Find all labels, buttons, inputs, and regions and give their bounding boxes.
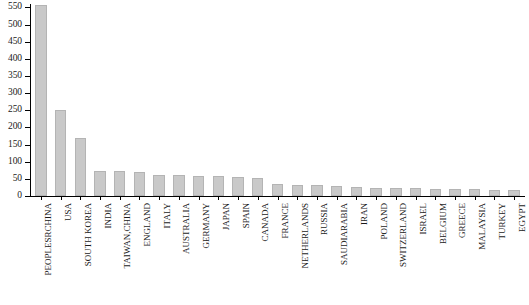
x-axis-tick xyxy=(356,196,357,200)
y-axis-tick xyxy=(25,7,30,8)
y-axis-tick-label: 50 xyxy=(0,174,22,184)
bar xyxy=(114,171,125,196)
bar xyxy=(232,177,243,196)
bar xyxy=(75,138,86,196)
bar xyxy=(55,110,66,196)
plot-area xyxy=(30,4,524,196)
x-axis-tick-label: SAUDIARABIA xyxy=(340,203,349,265)
x-axis-tick-label: NETHERLANDS xyxy=(301,203,310,269)
y-axis-tick xyxy=(25,42,30,43)
x-axis-tick-label: TAIWAN,CHINA xyxy=(123,203,132,269)
x-axis-tick xyxy=(61,196,62,200)
x-axis-tick xyxy=(337,196,338,200)
y-axis-tick-label: 400 xyxy=(0,54,22,64)
x-axis-tick-label: INDIA xyxy=(104,203,113,229)
y-axis-tick xyxy=(25,76,30,77)
y-axis-line xyxy=(30,4,31,197)
bar xyxy=(311,185,322,196)
x-axis-tick xyxy=(494,196,495,200)
x-axis-tick xyxy=(218,196,219,200)
y-axis-tick xyxy=(25,162,30,163)
y-axis-tick xyxy=(25,59,30,60)
bar-chart-figure: 050100150200250300350400450500550 PEOPLE… xyxy=(0,0,529,305)
y-axis-tick xyxy=(25,179,30,180)
x-axis-tick xyxy=(475,196,476,200)
bar xyxy=(370,188,381,196)
y-axis-tick xyxy=(25,93,30,94)
x-axis-tick-label: ENGLAND xyxy=(143,203,152,247)
x-axis-tick xyxy=(199,196,200,200)
bar xyxy=(35,5,46,196)
x-axis-tick-label: FRANCE xyxy=(281,203,290,239)
y-axis-tick xyxy=(25,127,30,128)
x-axis-tick xyxy=(41,196,42,200)
bar xyxy=(213,176,224,196)
x-axis-tick-label: EGYPT xyxy=(518,203,527,232)
x-axis-tick xyxy=(514,196,515,200)
bar xyxy=(173,175,184,196)
x-axis-tick-label: SWITZERLAND xyxy=(399,203,408,267)
y-axis-tick xyxy=(25,196,30,197)
bar xyxy=(272,184,283,196)
x-axis-tick-label: PEOPLESRCHINA xyxy=(44,203,53,276)
x-axis-tick xyxy=(435,196,436,200)
x-axis-tick xyxy=(179,196,180,200)
y-axis-tick-label: 450 xyxy=(0,37,22,47)
bar xyxy=(410,188,421,196)
x-axis-tick-label: TURKEY xyxy=(498,203,507,240)
x-axis-tick xyxy=(139,196,140,200)
bar xyxy=(193,176,204,196)
y-axis-tick-label: 0 xyxy=(0,191,22,201)
x-axis-tick xyxy=(238,196,239,200)
x-axis-tick-label: GREECE xyxy=(458,203,467,238)
x-axis-tick-label: RUSSIA xyxy=(320,203,329,235)
x-axis-tick xyxy=(396,196,397,200)
x-axis-tick-label: POLAND xyxy=(380,203,389,240)
x-axis-tick xyxy=(317,196,318,200)
y-axis-tick xyxy=(25,25,30,26)
x-axis-tick xyxy=(258,196,259,200)
bar xyxy=(449,189,460,196)
bar xyxy=(94,171,105,196)
x-axis-tick-label: GERMANY xyxy=(202,203,211,249)
bar xyxy=(390,188,401,196)
x-axis-tick-label: USA xyxy=(64,203,73,221)
x-axis-tick xyxy=(120,196,121,200)
x-axis-tick-label: AUSTRALIA xyxy=(182,203,191,254)
x-axis-tick xyxy=(416,196,417,200)
bar xyxy=(351,187,362,196)
bar xyxy=(430,189,441,196)
y-axis-tick-label: 350 xyxy=(0,71,22,81)
x-axis-tick-label: BELGIUM xyxy=(439,203,448,244)
x-axis-tick-label: MALAYSIA xyxy=(478,203,487,250)
x-axis-tick xyxy=(297,196,298,200)
x-axis-tick-label: CANADA xyxy=(261,203,270,242)
x-axis-tick-label: ISRAEL xyxy=(419,203,428,235)
y-axis-tick-label: 200 xyxy=(0,122,22,132)
y-axis-tick-label: 550 xyxy=(0,2,22,12)
bar xyxy=(292,185,303,196)
x-axis-tick xyxy=(455,196,456,200)
x-axis-tick-label: ITALY xyxy=(163,203,172,228)
y-axis-tick-label: 150 xyxy=(0,140,22,150)
bar xyxy=(252,178,263,196)
y-axis-tick-label: 300 xyxy=(0,88,22,98)
x-axis-tick xyxy=(159,196,160,200)
y-axis-tick-label: 500 xyxy=(0,20,22,30)
y-axis-tick-label: 100 xyxy=(0,157,22,167)
x-axis-tick xyxy=(278,196,279,200)
bar xyxy=(134,172,145,196)
y-axis-tick xyxy=(25,145,30,146)
y-axis-tick xyxy=(25,110,30,111)
x-axis-tick xyxy=(376,196,377,200)
x-axis-tick-label: IRAN xyxy=(360,203,369,225)
bar xyxy=(331,186,342,196)
bar xyxy=(469,189,480,196)
y-axis-tick-label: 250 xyxy=(0,105,22,115)
x-axis-tick-label: SPAIN xyxy=(242,203,251,228)
x-axis-tick xyxy=(100,196,101,200)
bar xyxy=(153,175,164,196)
x-axis-tick-label: SOUTH KOREA xyxy=(84,203,93,266)
x-axis-tick-label: JAPAN xyxy=(222,203,231,230)
x-axis-tick xyxy=(80,196,81,200)
